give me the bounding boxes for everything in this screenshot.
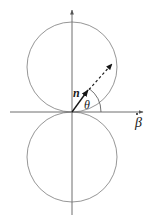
normal-vector-label: n bbox=[73, 87, 80, 99]
beta-symbol: β bbox=[135, 116, 142, 130]
angle-theta-label: θ bbox=[84, 99, 90, 111]
beta-dot-axis-label: β bbox=[135, 116, 142, 130]
radiation-direction-dashed-arrow bbox=[89, 64, 112, 90]
theta-angle-arc bbox=[89, 89, 101, 113]
radiation-pattern-figure: n θ β bbox=[0, 0, 160, 219]
figure-canvas bbox=[0, 0, 160, 219]
